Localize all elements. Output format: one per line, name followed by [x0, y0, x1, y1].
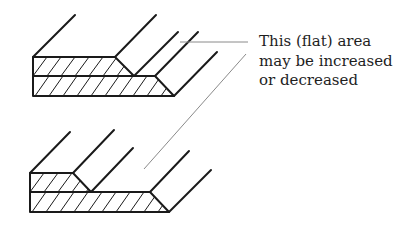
annotation-line-3: or decreased [259, 71, 393, 91]
annotation-line-1: This (flat) area [259, 32, 393, 52]
top-upper-hatching [33, 57, 145, 76]
leader-lines [144, 42, 248, 169]
annotation-text: This (flat) area may be increased or dec… [259, 32, 393, 91]
bottom-lower-hatching [32, 192, 172, 212]
top-profile [33, 15, 217, 96]
top-lower-hatching [35, 76, 175, 96]
bottom-profile [30, 130, 211, 212]
annotation-line-2: may be increased [259, 52, 393, 72]
